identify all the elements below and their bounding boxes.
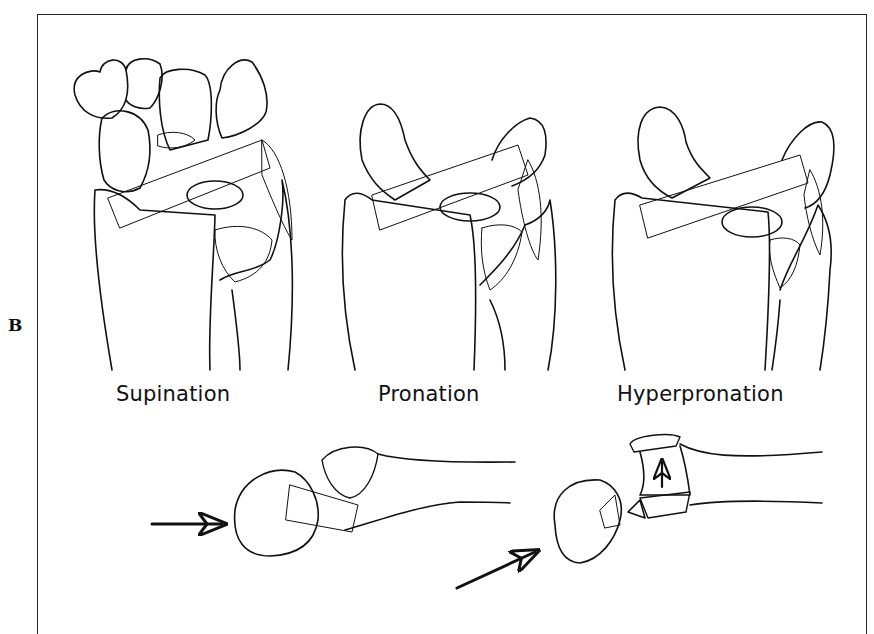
carpal-bone-4 <box>216 60 267 138</box>
caption-supination: Supination <box>116 382 230 406</box>
carpal-bone-1 <box>74 60 128 118</box>
ulnar-collateral-hatch <box>804 170 823 255</box>
carpal-head <box>554 480 621 563</box>
ulnar-head <box>722 207 782 237</box>
radius-bone <box>94 190 215 370</box>
radius-shaft-lower <box>345 502 510 530</box>
radius-bone <box>612 193 769 370</box>
carpal-bone-radial <box>638 107 710 198</box>
caption-pronation: Pronation <box>378 382 480 406</box>
supination-drawing <box>74 59 292 370</box>
hyperpronation-drawing <box>612 107 833 370</box>
displaced-fragment <box>640 446 690 495</box>
ulnar-collateral-hatch <box>518 160 541 260</box>
dorsal-fragment-cap <box>630 435 680 452</box>
tfcc-hatch <box>481 225 522 290</box>
diagonal-arrow-up-right <box>457 552 535 588</box>
volar-fragment-cap <box>640 492 690 518</box>
caption-hyperpronation: Hyperpronation <box>617 382 784 406</box>
ligament-hatched <box>286 485 358 532</box>
carpal-bone-ulnar <box>492 118 546 186</box>
carpal-head <box>235 470 319 556</box>
ulnar-head <box>187 181 243 209</box>
carpal-bone-ulnar <box>782 122 834 208</box>
lateral-view-pronation <box>152 447 535 588</box>
carpal-bone-radial <box>360 104 430 200</box>
ulna-bone <box>220 180 292 370</box>
scaphoid-bone <box>99 111 150 192</box>
radius-shaft-lower <box>690 501 822 505</box>
radioulnar-ligament <box>108 140 270 228</box>
tfcc-hatch <box>769 238 800 288</box>
radius-shaft-upper <box>378 454 515 462</box>
radius-shaft-upper <box>680 444 822 456</box>
carpal-bone-3 <box>159 69 211 150</box>
carpal-bone-2 <box>126 59 162 109</box>
pronation-drawing <box>342 104 555 370</box>
ulnar-head-hatched <box>322 447 378 498</box>
ligament-hatched <box>600 495 620 528</box>
lateral-view-hyperpronation <box>554 435 822 563</box>
radioulnar-ligament <box>640 155 808 238</box>
tfcc-hatch <box>215 226 272 282</box>
